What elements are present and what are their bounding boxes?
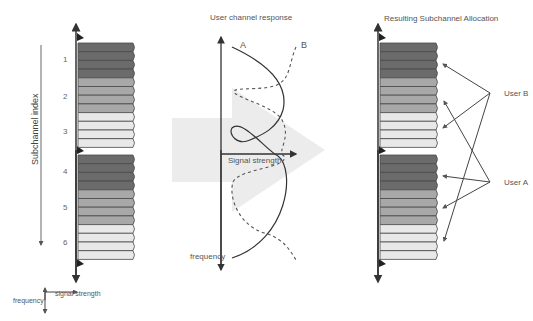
subchannel-bar xyxy=(380,233,438,242)
subchannel-bar xyxy=(78,251,135,260)
frequency-label: frequency xyxy=(190,252,225,261)
right-panel-title: Resulting Subchannel Allocation xyxy=(384,14,498,23)
subchannel-bar xyxy=(78,181,135,190)
subchannel-bar xyxy=(380,139,438,148)
subchannel-bar xyxy=(380,190,438,199)
subchannel-bar xyxy=(380,130,438,139)
subchannel-bar xyxy=(380,207,438,216)
subchannel-bar xyxy=(380,78,438,87)
subchannel-bar xyxy=(380,121,438,130)
subchannel-bar xyxy=(78,225,135,234)
subchannel-bar xyxy=(380,199,438,208)
subchannel-bar xyxy=(78,87,135,96)
subchannel-bar xyxy=(78,139,135,148)
subchannel-bar xyxy=(380,104,438,113)
subchannel-bar xyxy=(380,87,438,96)
subchannel-index-label: Subchannel index xyxy=(30,93,40,165)
subchannel-bar xyxy=(78,216,135,225)
subchannel-number: 5 xyxy=(63,203,67,212)
subchannel-bar xyxy=(380,155,438,164)
signal-strength-label: Signal strength xyxy=(228,156,281,165)
subchannel-bar xyxy=(78,69,135,78)
user-b-label: User B xyxy=(504,89,528,98)
subchannel-bar xyxy=(78,113,135,122)
subchannel-bar xyxy=(78,121,135,130)
subchannel-bar xyxy=(78,130,135,139)
subchannel-number: 6 xyxy=(63,238,67,247)
subchannel-bar xyxy=(380,225,438,234)
subchannel-bar xyxy=(78,78,135,87)
left-marker-top xyxy=(77,33,84,41)
subchannel-bar xyxy=(380,251,438,260)
left-subchannel-bars xyxy=(78,43,135,259)
subchannel-number: 3 xyxy=(63,127,67,136)
user-b-arrows xyxy=(443,64,490,241)
subchannel-number: 1 xyxy=(63,55,67,64)
subchannel-bar xyxy=(380,60,438,69)
user-a-label: User A xyxy=(504,178,528,187)
subchannel-bar xyxy=(78,207,135,216)
subchannel-bar xyxy=(380,216,438,225)
subchannel-bar xyxy=(78,190,135,199)
transition-arrow xyxy=(172,88,325,212)
curve-a-label: A xyxy=(240,40,246,50)
legend-signal-strength-label: signal strength xyxy=(55,290,101,297)
subchannel-bar xyxy=(78,104,135,113)
subchannel-bar xyxy=(380,181,438,190)
right-marker-top xyxy=(379,33,386,41)
subchannel-bar xyxy=(78,242,135,251)
subchannel-bar xyxy=(78,60,135,69)
subchannel-bar xyxy=(78,95,135,104)
subchannel-number: 4 xyxy=(63,167,67,176)
subchannel-bar xyxy=(380,52,438,61)
subchannel-bar xyxy=(78,172,135,181)
subchannel-number: 2 xyxy=(63,92,67,101)
subchannel-bar xyxy=(380,164,438,173)
legend-frequency-label: frequency xyxy=(13,297,44,304)
subchannel-bar xyxy=(380,43,438,52)
left-marker-bottom xyxy=(77,259,84,267)
subchannel-bar xyxy=(78,52,135,61)
subchannel-bar xyxy=(78,233,135,242)
right-subchannel-bars xyxy=(380,43,438,259)
subchannel-bar xyxy=(78,199,135,208)
subchannel-bar xyxy=(78,43,135,52)
subchannel-bar xyxy=(78,164,135,173)
subchannel-bar xyxy=(380,113,438,122)
middle-panel-title: User channel response xyxy=(210,13,292,22)
subchannel-bar xyxy=(380,172,438,181)
subchannel-bar xyxy=(380,95,438,104)
curve-b-label: B xyxy=(301,40,307,50)
subchannel-bar xyxy=(380,242,438,251)
right-marker-bottom xyxy=(379,259,386,267)
subchannel-bar xyxy=(380,69,438,78)
subchannel-bar xyxy=(78,155,135,164)
